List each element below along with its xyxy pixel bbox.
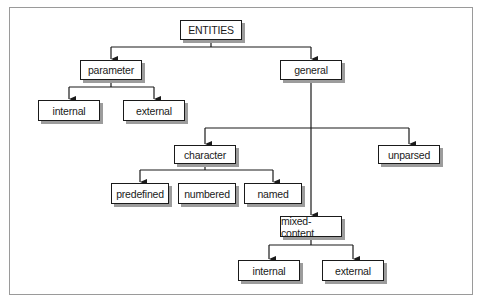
- node-numbered: numbered: [178, 183, 236, 204]
- node-mixed-external: external: [322, 260, 384, 281]
- node-parameter-external: external: [123, 100, 185, 121]
- node-general: general: [280, 60, 342, 80]
- node-mixed-content: mixed-content: [280, 216, 342, 237]
- node-predefined: predefined: [111, 183, 169, 204]
- node-parameter: parameter: [80, 60, 142, 80]
- node-character: character: [174, 145, 236, 164]
- node-entities: ENTITIES: [180, 20, 242, 40]
- node-unparsed: unparsed: [378, 145, 440, 164]
- node-named: named: [244, 183, 302, 204]
- node-mixed-internal: internal: [238, 260, 300, 281]
- node-parameter-internal: internal: [38, 100, 100, 121]
